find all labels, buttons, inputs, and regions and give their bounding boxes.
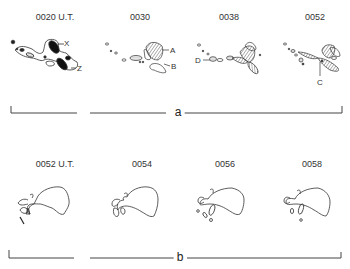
annotation-a: A [170, 46, 176, 55]
flare-sketch-drawing: X Z A B D [0, 0, 350, 269]
annotation-d: D [195, 56, 201, 65]
frame-b3-sketch [197, 188, 244, 222]
frame-b4-sketch [284, 188, 330, 221]
frame-a3-sketch [197, 42, 260, 75]
row-a-label: a [172, 105, 185, 119]
frame-b2-sketch [112, 187, 158, 217]
annotation-c: C [317, 78, 323, 87]
annotation-b: B [171, 62, 176, 71]
frame-a2-sketch [105, 42, 170, 72]
annotation-z: Z [77, 64, 82, 73]
row-b-label: b [174, 250, 187, 264]
frame-a4-sketch [283, 43, 340, 76]
annotation-x: X [64, 39, 70, 48]
frame-b1-sketch [18, 187, 69, 224]
